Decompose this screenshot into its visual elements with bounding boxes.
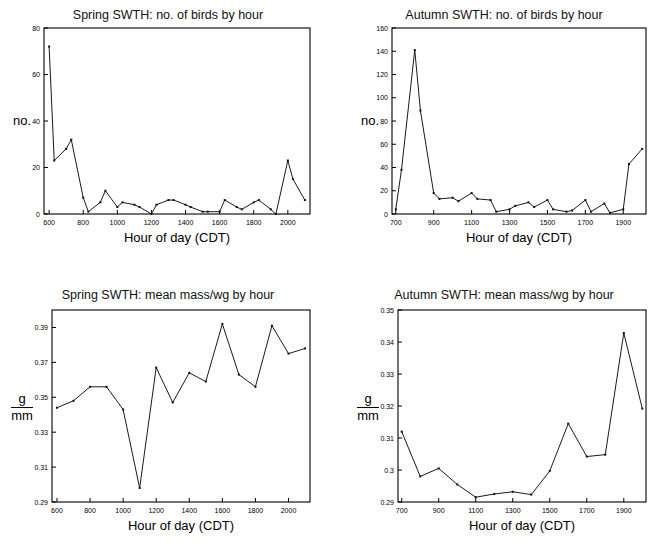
y-tick-label: 0.3 [384, 467, 394, 474]
y-tick-label: 60 [380, 141, 388, 148]
data-point [82, 197, 84, 199]
x-tick-label: 1600 [215, 507, 231, 514]
data-point [641, 148, 643, 150]
chart-panel-autumn-mass: Autumn SWTH: mean mass/wg by hour 0.290.… [336, 288, 672, 543]
x-tick-label: 1700 [579, 507, 595, 514]
data-point [603, 203, 605, 205]
data-point [475, 496, 477, 498]
y-tick-label: 80 [380, 118, 388, 125]
data-point [53, 160, 55, 162]
data-point [395, 208, 397, 210]
data-point [292, 178, 294, 180]
y-tick-label: 0.29 [34, 499, 48, 506]
data-point [400, 169, 402, 171]
x-tick-label: 700 [390, 219, 402, 226]
axis-frame [392, 28, 646, 214]
data-point [304, 199, 306, 201]
data-point [173, 199, 175, 201]
data-point [584, 199, 586, 201]
x-tick-label: 1800 [246, 219, 262, 226]
data-point [205, 381, 207, 383]
plot-area-autumn-mass: 0.290.30.310.320.330.340.357009001100130… [336, 288, 672, 543]
data-point [490, 199, 492, 201]
data-point [188, 372, 190, 374]
data-point [438, 198, 440, 200]
x-tick-label: 1500 [542, 507, 558, 514]
data-point [48, 46, 50, 48]
data-point [221, 323, 223, 325]
data-point [99, 201, 101, 203]
data-point [73, 400, 75, 402]
chart-panel-spring-count: Spring SWTH: no. of birds by hour 020406… [0, 8, 336, 253]
data-point [456, 483, 458, 485]
x-tick-label: 600 [43, 219, 55, 226]
x-axis-title: Hour of day (CDT) [124, 230, 230, 245]
data-point [254, 386, 256, 388]
data-point [155, 367, 157, 369]
x-tick-label: 600 [51, 507, 63, 514]
x-tick-label: 1200 [144, 219, 160, 226]
y-tick-label: 0 [384, 211, 388, 218]
x-axis-title: Hour of day (CDT) [128, 518, 234, 533]
x-tick-label: 2000 [280, 219, 296, 226]
chart-panel-spring-mass: Spring SWTH: mean mass/wg by hour 0.290.… [0, 288, 336, 543]
axis-frame [398, 310, 646, 502]
y-tick-label: 0.31 [34, 464, 48, 471]
data-point [116, 206, 118, 208]
y-tick-label: 140 [376, 48, 388, 55]
y-tick-label: 0.35 [34, 394, 48, 401]
data-point [495, 211, 497, 213]
y-tick-label: 0.32 [380, 403, 394, 410]
data-point [219, 211, 221, 213]
data-point [287, 160, 289, 162]
data-point [156, 204, 158, 206]
series-line-autumn-mass [402, 333, 643, 497]
data-point [258, 199, 260, 201]
y-tick-label: 0.39 [34, 324, 48, 331]
x-tick-label: 1900 [615, 219, 631, 226]
y-tick-label: 160 [376, 25, 388, 32]
data-point [65, 148, 67, 150]
y-tick-label: 20 [380, 187, 388, 194]
data-point [552, 208, 554, 210]
data-point [104, 190, 106, 192]
data-point [414, 49, 416, 51]
data-point [304, 347, 306, 349]
y-axis-title-numerator: g [18, 391, 25, 406]
data-point [275, 213, 277, 215]
data-point [571, 210, 573, 212]
data-point [549, 470, 551, 472]
data-point [401, 431, 403, 433]
data-point [56, 407, 58, 409]
data-point [509, 208, 511, 210]
plot-area-autumn-count: 0204060801001201401607009001100130015001… [336, 8, 672, 253]
data-point [202, 211, 204, 213]
y-axis-title-denominator: mm [11, 408, 33, 423]
y-tick-label: 0.33 [34, 429, 48, 436]
data-point [253, 201, 255, 203]
x-tick-label: 1500 [540, 219, 556, 226]
data-point [288, 353, 290, 355]
x-tick-label: 1400 [181, 507, 197, 514]
data-point [133, 204, 135, 206]
chart-panel-autumn-count: Autumn SWTH: no. of birds by hour 020406… [336, 8, 672, 253]
data-point [138, 206, 140, 208]
series-line-spring-count [49, 47, 305, 214]
x-tick-label: 900 [433, 507, 445, 514]
x-tick-label: 800 [77, 219, 89, 226]
data-point [533, 206, 535, 208]
data-point [457, 200, 459, 202]
x-tick-label: 1800 [248, 507, 264, 514]
data-point [224, 199, 226, 201]
plot-area-spring-mass: 0.290.310.330.350.370.396008001000120014… [0, 288, 336, 543]
data-point [87, 211, 89, 213]
data-point [122, 408, 124, 410]
x-tick-label: 900 [428, 219, 440, 226]
x-axis-title: Hour of day (CDT) [466, 230, 572, 245]
data-point [438, 467, 440, 469]
data-point [89, 386, 91, 388]
data-point [106, 386, 108, 388]
y-tick-label: 80 [32, 25, 40, 32]
data-point [514, 205, 516, 207]
data-point [590, 211, 592, 213]
